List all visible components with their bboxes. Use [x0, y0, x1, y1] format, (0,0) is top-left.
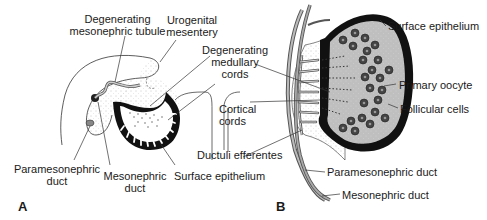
label-cortical-cords: Cortical cords — [219, 103, 256, 127]
panel-letter-a: A — [18, 199, 27, 214]
panel-letter-b: B — [276, 199, 285, 214]
label-paramesonephric-duct-a: Paramesonephric duct — [12, 163, 102, 187]
label-urogenital-mesentery: Urogenital mesentery — [157, 14, 227, 38]
label-surface-epithelium-a: Surface epithelium — [174, 170, 265, 182]
label-follicular-cells: Follicular cells — [400, 103, 469, 115]
label-degenerating-medullary-cords: Degenerating medullary cords — [200, 44, 270, 80]
label-paramesonephric-duct-b: Paramesonephric duct — [327, 166, 437, 178]
label-primary-oocyte: Primary oocyte — [399, 79, 472, 91]
label-ductuli-efferentes: Ductuli efferentes — [197, 149, 282, 161]
label-mesonephric-duct-a: Mesonephric duct — [102, 170, 168, 194]
label-surface-epithelium-b: Surface epithelium — [388, 20, 479, 32]
label-mesonephric-duct-b: Mesonephric duct — [342, 189, 429, 201]
